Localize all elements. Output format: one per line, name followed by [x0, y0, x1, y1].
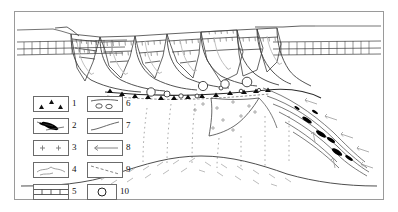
legend-number-7: 7 — [126, 121, 131, 130]
shear-arrow-group — [305, 98, 373, 168]
fault-block-group — [71, 28, 311, 92]
legend-swatch-5 — [33, 184, 69, 200]
legend-swatch-8 — [87, 140, 123, 156]
topographic-surface — [55, 26, 315, 36]
legend-number-6: 6 — [126, 99, 131, 108]
legend-swatch-6 — [87, 96, 123, 112]
legend: 1 6 2 — [33, 96, 135, 200]
legend-swatch-4 — [33, 162, 69, 178]
legend-swatch-7 — [87, 118, 123, 134]
granite-pluton — [193, 98, 277, 136]
figure-frame: 1 6 2 — [14, 11, 384, 200]
legend-swatch-3 — [33, 140, 69, 156]
granite-plus-symbols — [193, 100, 257, 132]
legend-number-4: 4 — [72, 165, 77, 174]
strata-right — [273, 26, 381, 55]
legend-number-3: 3 — [72, 143, 77, 152]
mylonitic-shear-zone — [263, 88, 373, 176]
legend-swatch-2 — [33, 118, 69, 134]
legend-number-9: 9 — [126, 165, 131, 174]
legend-swatch-10 — [87, 184, 117, 200]
figure-root: 1 6 2 — [0, 0, 398, 212]
legend-number-10: 10 — [120, 187, 129, 196]
legend-swatch-9 — [87, 162, 123, 178]
legend-number-8: 8 — [126, 143, 131, 152]
foliation-trajectory-group — [143, 104, 289, 168]
legend-number-1: 1 — [72, 99, 77, 108]
legend-number-5: 5 — [72, 187, 77, 196]
legend-swatch-1 — [33, 96, 69, 112]
legend-number-2: 2 — [72, 121, 77, 130]
